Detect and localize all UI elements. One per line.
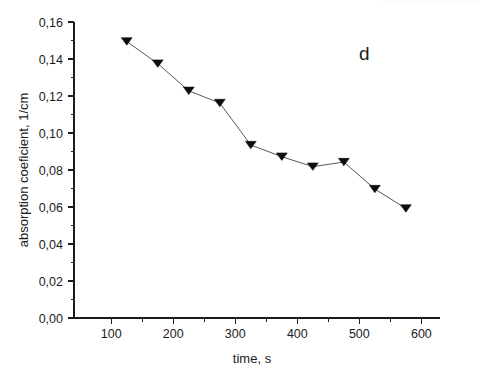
y-tick-label: 0,08 <box>39 164 63 178</box>
y-axis-title: absorption coeficient, 1/cm <box>16 93 31 248</box>
x-tick-label: 600 <box>411 327 432 341</box>
y-tick-label: 0,10 <box>39 127 63 141</box>
data-point-marker <box>214 99 225 106</box>
chart-figure: 0,000,020,040,060,080,100,120,140,16 abs… <box>0 0 477 375</box>
data-point-marker <box>152 60 163 67</box>
series-line <box>127 41 406 208</box>
x-axis-tick-labels: 100200300400500600 <box>101 327 432 341</box>
y-axis-major-ticks <box>68 22 74 318</box>
y-axis: 0,000,020,040,060,080,100,120,140,16 abs… <box>16 16 74 326</box>
line-chart: 0,000,020,040,060,080,100,120,140,16 abs… <box>0 0 477 375</box>
y-tick-label: 0,06 <box>39 201 63 215</box>
x-axis: 100200300400500600 time, s <box>74 318 440 366</box>
data-point-marker <box>276 153 287 160</box>
x-tick-label: 300 <box>225 327 246 341</box>
data-point-marker <box>307 163 318 170</box>
y-tick-label: 0,02 <box>39 275 63 289</box>
x-tick-label: 400 <box>287 327 308 341</box>
y-tick-label: 0,16 <box>39 16 63 30</box>
x-tick-label: 500 <box>349 327 370 341</box>
y-tick-label: 0,04 <box>39 238 63 252</box>
x-tick-label: 100 <box>101 327 122 341</box>
data-point-marker <box>245 141 256 148</box>
y-tick-label: 0,12 <box>39 90 63 104</box>
x-axis-title: time, s <box>233 351 272 366</box>
y-tick-label: 0,00 <box>39 312 63 326</box>
y-tick-label: 0,14 <box>39 53 63 67</box>
data-point-marker <box>400 205 411 212</box>
x-tick-label: 200 <box>163 327 184 341</box>
data-point-marker <box>183 87 194 94</box>
panel-label: d <box>359 43 370 64</box>
annotations: d <box>359 43 370 64</box>
data-point-marker <box>338 158 349 165</box>
y-axis-tick-labels: 0,000,020,040,060,080,100,120,140,16 <box>39 16 63 326</box>
